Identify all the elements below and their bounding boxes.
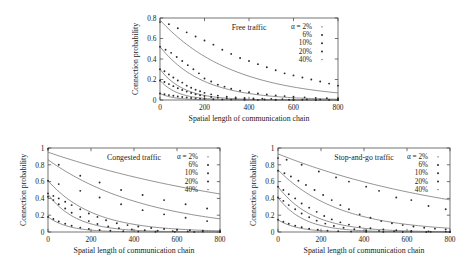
legend-label: α = 2%: [407, 153, 428, 161]
data-point: [58, 197, 60, 199]
data-point: [172, 77, 174, 79]
data-point: [88, 220, 90, 222]
data-point: [190, 87, 192, 89]
data-point: [253, 98, 255, 100]
data-point: [71, 204, 73, 206]
data-point: [275, 69, 277, 71]
data-point: [99, 197, 101, 199]
panel-stop-and-go-traffic: 020040060080000.20.40.60.81Spatial lengt…: [240, 138, 465, 260]
data-point: [423, 227, 425, 229]
data-point: [206, 208, 208, 210]
data-point: [198, 72, 200, 74]
data-point: [277, 157, 279, 159]
data-point: [210, 81, 212, 83]
data-point: [187, 64, 189, 66]
data-point: [159, 68, 161, 70]
legend-label: 20%: [415, 178, 428, 186]
data-point: [449, 231, 451, 233]
data-point: [248, 60, 250, 62]
data-point: [164, 93, 166, 95]
data-point: [328, 83, 330, 85]
data-point: [219, 231, 221, 233]
x-tick-label: 600: [171, 235, 182, 244]
data-point: [116, 222, 118, 224]
data-point: [64, 201, 66, 203]
legend-marker: [207, 180, 209, 182]
data-point: [326, 97, 328, 99]
data-point: [58, 221, 60, 223]
data-point: [314, 189, 316, 191]
y-tick-label: 0.8: [35, 161, 45, 170]
legend-marker: [207, 156, 208, 157]
data-point: [137, 231, 139, 233]
data-point: [181, 82, 183, 84]
data-point: [99, 181, 101, 183]
data-point: [181, 96, 183, 98]
legend-marker: [437, 180, 439, 182]
data-point: [331, 218, 333, 220]
figure-three-panel-connection-probability: 020040060080000.20.40.60.8Spatial length…: [0, 0, 467, 266]
data-point: [204, 98, 206, 100]
legend-marker: [437, 156, 438, 157]
data-point: [190, 97, 192, 99]
data-point: [428, 205, 430, 207]
data-point: [163, 199, 165, 201]
x-tick-label: 800: [214, 235, 225, 244]
data-point: [322, 194, 324, 196]
data-point: [52, 199, 54, 201]
data-point: [305, 184, 307, 186]
data-point: [193, 231, 195, 233]
legend-label: 6%: [418, 161, 428, 169]
fit-curve: [278, 198, 450, 232]
data-point: [277, 197, 279, 199]
data-point: [327, 230, 329, 232]
data-point: [315, 99, 317, 101]
legend-label: 6%: [302, 31, 312, 39]
data-point: [382, 231, 384, 233]
data-point: [105, 219, 107, 221]
data-point: [323, 215, 325, 217]
data-point: [159, 93, 161, 95]
data-point: [204, 40, 206, 42]
data-point: [212, 44, 214, 46]
x-tick-label: 800: [332, 103, 343, 112]
data-point: [282, 221, 284, 223]
y-tick-label: 0.4: [265, 194, 275, 203]
data-point: [294, 197, 296, 199]
data-point: [159, 46, 161, 48]
data-point: [142, 194, 144, 196]
data-point: [331, 199, 333, 201]
series-points: [47, 192, 221, 232]
data-point: [176, 229, 178, 231]
data-point: [410, 231, 412, 233]
legend-label: α = 2%: [177, 153, 198, 161]
data-point: [230, 88, 232, 90]
data-point: [297, 180, 299, 182]
panel-congested-traffic: 020040060080000.20.40.60.81Spatial lengt…: [10, 138, 235, 260]
data-point: [210, 93, 212, 95]
data-point: [177, 87, 179, 89]
legend-marker: [321, 34, 323, 36]
data-point: [168, 94, 170, 96]
data-point: [127, 224, 129, 226]
data-point: [186, 85, 188, 87]
data-point: [281, 98, 283, 100]
data-point: [226, 97, 228, 99]
data-point: [181, 89, 183, 91]
legend-label: 20%: [185, 178, 198, 186]
data-point: [277, 170, 279, 172]
x-tick-label: 400: [128, 235, 139, 244]
data-point: [428, 230, 430, 232]
data-point: [318, 171, 320, 173]
data-point: [343, 227, 345, 229]
y-tick-label: 0.8: [265, 161, 275, 170]
data-point: [199, 98, 201, 100]
data-point: [204, 92, 206, 94]
panel-title: Congested traffic: [107, 153, 161, 162]
data-point: [335, 176, 337, 178]
data-point: [277, 186, 279, 188]
data-point: [293, 74, 295, 76]
data-point: [244, 99, 246, 101]
data-point: [177, 80, 179, 82]
legend-marker: [321, 59, 322, 60]
